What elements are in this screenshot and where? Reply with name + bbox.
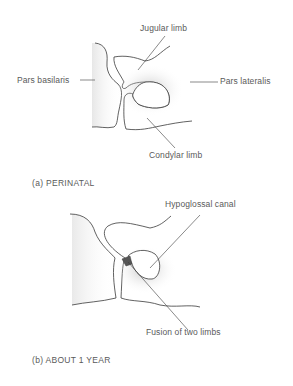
caption-panel-a: (a) PERINATAL — [32, 178, 95, 188]
label-condylar-limb: Condylar limb — [149, 150, 202, 160]
label-fusion-of-two-limbs: Fusion of two limbs — [146, 327, 221, 337]
label-hypoglossal-canal: Hypoglossal canal — [165, 199, 236, 209]
panel-a-illustration — [80, 36, 218, 148]
panel-b-illustration — [70, 214, 200, 330]
label-pars-lateralis: Pars lateralis — [220, 76, 271, 86]
label-pars-basilaris: Pars basilaris — [17, 75, 69, 85]
caption-panel-b: (b) ABOUT 1 YEAR — [32, 355, 111, 365]
label-jugular-limb: Jugular limb — [140, 23, 187, 33]
